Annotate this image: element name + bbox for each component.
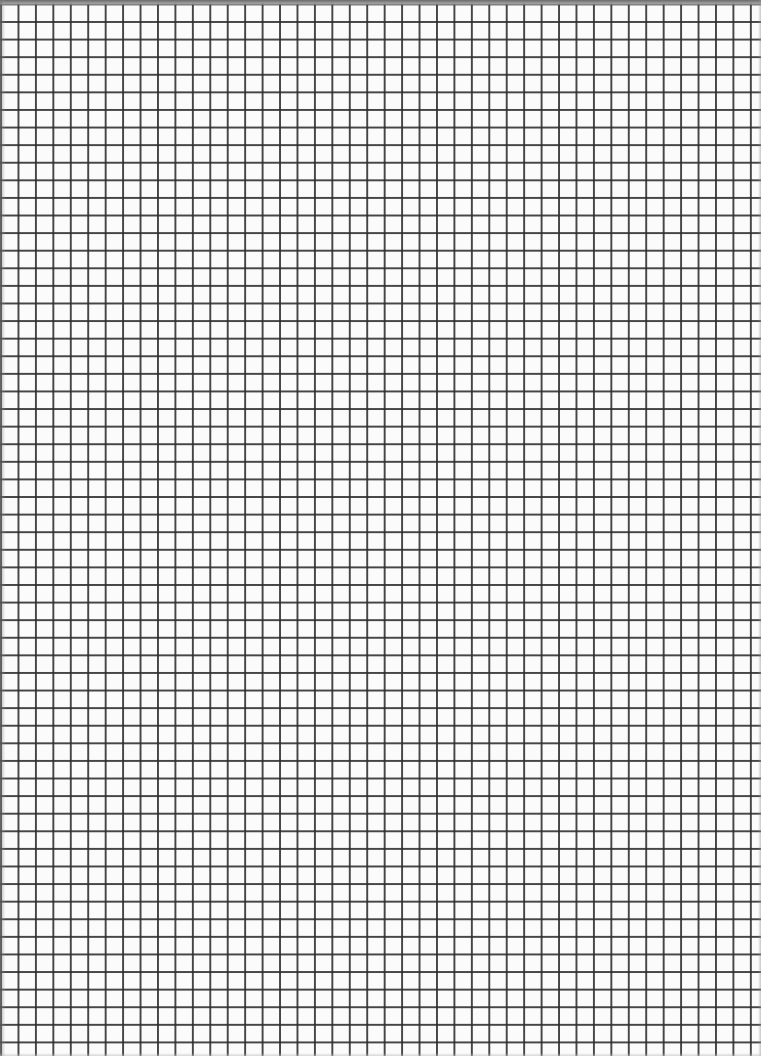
paper-left-edge-shadow (0, 0, 5, 1056)
paper-top-edge (0, 0, 761, 5)
graph-paper-sheet (0, 0, 761, 1056)
